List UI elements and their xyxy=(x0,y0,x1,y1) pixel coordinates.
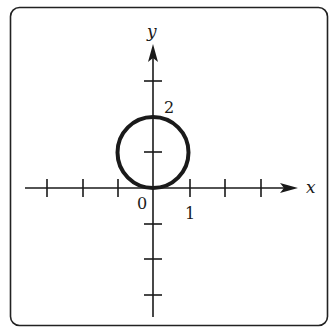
x-axis-label: x xyxy=(306,177,316,197)
origin-label: 0 xyxy=(137,194,147,213)
diagram-stage: y x 0 1 2 xyxy=(0,0,329,333)
diagram-frame xyxy=(11,8,328,326)
y-axis-label: y xyxy=(146,21,157,41)
y-tick-label-2: 2 xyxy=(164,98,174,117)
coordinate-plane: y x 0 1 2 xyxy=(0,0,329,333)
x-tick-label-1: 1 xyxy=(185,204,195,223)
